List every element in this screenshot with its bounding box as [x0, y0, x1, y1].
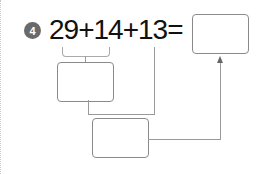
connector-horizontal	[88, 114, 155, 115]
result-horizontal-line	[148, 139, 220, 140]
first-pair-bracket	[62, 47, 110, 57]
arrow-up-icon	[217, 56, 223, 63]
answer-box[interactable]	[192, 14, 249, 54]
result-up-line	[220, 62, 221, 140]
page-margin-dots	[0, 0, 3, 174]
first-sum-box[interactable]	[57, 62, 114, 102]
second-sum-box[interactable]	[92, 118, 149, 158]
problem-number-badge: 4	[24, 22, 41, 39]
thirteen-down-line	[154, 47, 155, 115]
first-sum-down-line	[88, 100, 89, 114]
expression: 29+14+13=	[49, 14, 183, 46]
